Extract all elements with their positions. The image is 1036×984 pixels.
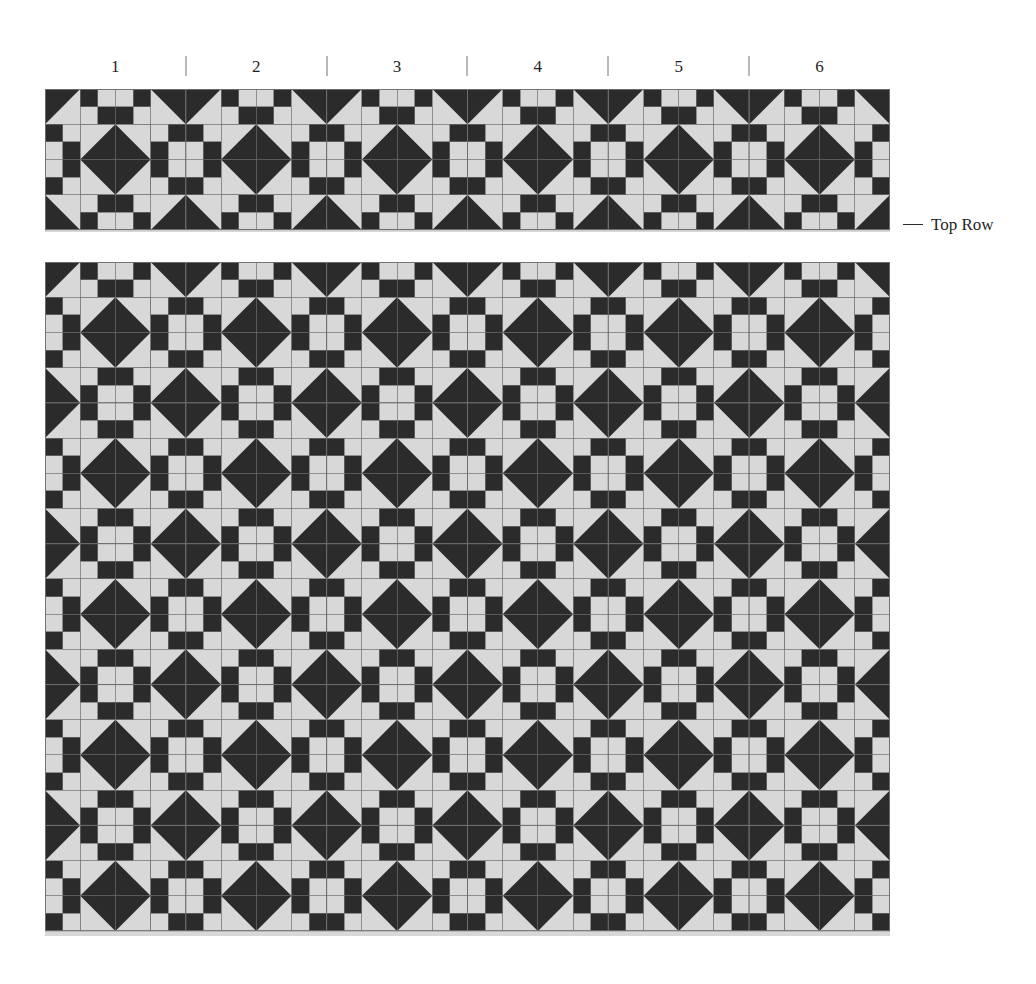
column-number-label: 3 (393, 57, 402, 76)
column-number-label: 2 (252, 57, 261, 76)
column-number-label: 4 (534, 57, 543, 76)
quilt-block (468, 544, 609, 685)
column-number-2: 2 (186, 58, 327, 75)
quilt-block (749, 825, 890, 936)
column-number-label: 6 (815, 57, 824, 76)
quilt-block (327, 825, 468, 936)
quilt-block (749, 89, 890, 230)
quilt-block (468, 403, 609, 544)
quilt-block (468, 89, 609, 230)
top-row-quilt-panel (45, 89, 890, 232)
quilt-block (45, 89, 186, 230)
block-column-ruler: 1 2 3 4 5 6 (45, 50, 890, 82)
quilt-block (45, 403, 186, 544)
main-body-quilt-panel (45, 262, 890, 936)
quilt-block (608, 544, 749, 685)
column-number-6: 6 (749, 58, 890, 75)
top-row-annotation: Top Row (903, 216, 994, 233)
quilt-block (186, 685, 327, 826)
quilt-block (468, 685, 609, 826)
column-number-1: 1 (45, 58, 186, 75)
quilt-block (45, 544, 186, 685)
quilt-block (608, 262, 749, 403)
column-number-4: 4 (467, 58, 608, 75)
column-number-3: 3 (327, 58, 468, 75)
quilt-block (608, 89, 749, 230)
quilt-block (186, 262, 327, 403)
quilt-block (186, 544, 327, 685)
quilt-block (186, 89, 327, 230)
top-row-quilt-svg (45, 89, 890, 232)
quilt-block (45, 262, 186, 403)
quilt-block (468, 825, 609, 936)
top-row-label: Top Row (931, 216, 994, 233)
quilt-block (186, 825, 327, 936)
quilt-block (749, 544, 890, 685)
leader-line-icon (903, 224, 923, 226)
quilt-block (45, 685, 186, 826)
quilt-block (749, 685, 890, 826)
quilt-block (749, 403, 890, 544)
quilt-block (327, 544, 468, 685)
quilt-block (186, 403, 327, 544)
column-number-label: 1 (111, 57, 120, 76)
quilt-diagram-stage: 1 2 3 4 5 6 Top Row (0, 0, 1036, 984)
column-number-label: 5 (674, 57, 683, 76)
main-body-quilt-svg (45, 262, 890, 936)
quilt-block (608, 825, 749, 936)
quilt-block (608, 403, 749, 544)
column-number-5: 5 (608, 58, 749, 75)
quilt-block (45, 825, 186, 936)
quilt-block (327, 89, 468, 230)
quilt-block (608, 685, 749, 826)
quilt-block (327, 262, 468, 403)
quilt-block (468, 262, 609, 403)
quilt-block (749, 262, 890, 403)
quilt-block (327, 685, 468, 826)
quilt-block (327, 403, 468, 544)
